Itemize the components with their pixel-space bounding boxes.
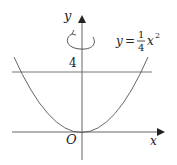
- x-axis-label: x: [150, 134, 157, 148]
- parabola-curve: [14, 57, 148, 133]
- rotation-arrow-icon: [67, 30, 94, 49]
- equation-equals: =: [125, 34, 135, 48]
- parabola-diagram: y x O 4 y = 1 4 x 2: [0, 0, 177, 165]
- equation-exponent: 2: [155, 31, 160, 40]
- equation-variable: x: [147, 34, 154, 48]
- equation-label: y = 1 4 x 2: [115, 29, 160, 53]
- line-value-label: 4: [69, 56, 77, 70]
- fraction-denominator: 4: [138, 42, 144, 53]
- fraction-numerator: 1: [138, 29, 144, 40]
- equation-lhs: y: [115, 34, 123, 48]
- origin-label: O: [66, 132, 77, 147]
- y-axis-label: y: [63, 8, 72, 23]
